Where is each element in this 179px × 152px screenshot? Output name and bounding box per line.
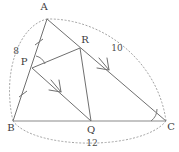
measure-label-AB: 8 — [13, 47, 19, 56]
side-AB — [13, 19, 47, 121]
vertex-label-C: C — [167, 122, 175, 132]
geometry-figure: A B C P Q R 8 10 12 — [0, 0, 179, 152]
segment-PR — [32, 48, 80, 68]
vertex-label-R: R — [81, 35, 89, 45]
arrow-PQ-icon — [49, 80, 61, 92]
measure-label-AC: 10 — [111, 44, 122, 53]
vertex-label-A: A — [40, 2, 47, 12]
measure-label-BC: 12 — [86, 139, 97, 148]
segment-PQ — [32, 68, 91, 121]
segment-RQ — [80, 48, 91, 121]
vertex-label-P: P — [21, 57, 28, 67]
vertex-label-B: B — [7, 123, 14, 133]
vertex-label-Q: Q — [87, 125, 95, 135]
